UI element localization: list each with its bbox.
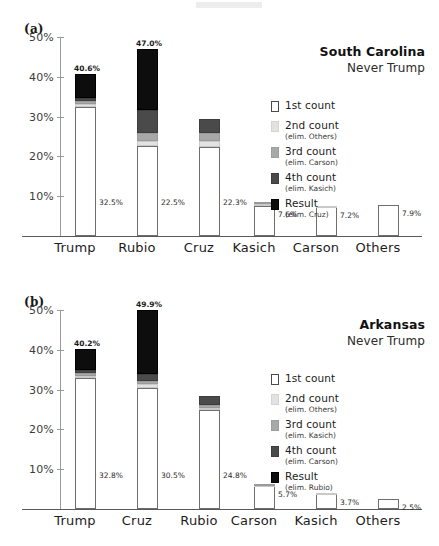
y-axis-tick-label: 20% [18,150,54,163]
bar-segment-rubio-2 [199,408,220,410]
legend-label: 4th count [285,172,403,183]
chart-subtitle-b: Never Trump [245,334,425,348]
legend-swatch-icon [271,147,279,158]
legend-swatch-icon [271,446,279,457]
y-axis-tick-mark [57,310,64,311]
legend-item-4[interactable]: 4th count(elim. Kasich) [271,172,403,193]
bar-trump[interactable] [75,0,96,236]
bar-segment-cruz-4 [137,374,158,381]
y-axis-tick-label: 30% [18,110,54,123]
legend-label: 4th count [285,445,403,456]
legend-item-2[interactable]: 2nd count(elim. Others) [271,393,403,414]
legend-sublabel: (elim. Carson) [285,158,403,167]
bar-first-count-label: 2.5% [402,503,421,512]
x-axis-line [22,236,422,237]
y-axis-tick-label: 30% [18,383,54,396]
chart-title-block-a: South Carolina Never Trump [245,44,425,75]
legend-label: 3rd count [285,419,403,430]
legend-swatch-icon [271,121,279,132]
bar-segment-cruz-5 [137,310,158,373]
y-axis-tick-label: 40% [18,70,54,83]
bar-rubio[interactable] [137,0,158,236]
bar-segment-trump-2 [75,104,96,106]
legend-item-2[interactable]: 2nd count(elim. Others) [271,120,403,141]
chart-title-b: Arkansas [245,317,425,332]
y-axis-tick-mark [57,350,64,351]
legend-swatch-icon [271,173,279,184]
chart-title-a: South Carolina [245,44,425,59]
bar-segment-cruz-1 [199,147,220,236]
y-axis-tick-label: 10% [18,190,54,203]
bar-first-count-label: 30.5% [161,471,185,480]
bar-cruz[interactable] [199,0,220,236]
bar-segment-rubio-1 [137,146,158,236]
legend-label: 3rd count [285,146,403,157]
legend-swatch-icon [271,394,279,405]
panel-south-carolina: (a) 10%20%30%40%50%40.6%32.5%Trump47.0%2… [0,0,439,273]
bar-segment-rubio-3 [137,133,158,141]
legend-label: 1st count [285,100,403,111]
bar-segment-cruz-3 [137,381,158,384]
legend-item-1[interactable]: 1st count [271,100,403,115]
bar-first-count-label: 3.7% [340,498,359,507]
legend-a: 1st count2nd count(elim. Others)3rd coun… [271,100,403,224]
y-axis-tick-mark [57,156,64,157]
bar-segment-trump-3 [75,373,96,375]
bar-segment-trump-3 [75,101,96,104]
y-axis-tick-mark [57,117,64,118]
bar-segment-rubio-4 [137,110,158,133]
bar-segment-rubio-5 [137,49,158,110]
y-axis-tick-label: 50% [18,31,54,44]
bar-segment-cruz-3 [199,133,220,141]
bar-total-label: 47.0% [136,39,162,48]
legend-sublabel: (elim. Kasich) [285,184,403,193]
y-axis-tick-label: 40% [18,343,54,356]
legend-item-3[interactable]: 3rd count(elim. Kasich) [271,419,403,440]
legend-item-1[interactable]: 1st count [271,373,403,388]
bar-first-count-label: 32.5% [99,198,123,207]
bar-first-count-label: 24.8% [223,471,247,480]
bar-first-count-label: 32.8% [99,471,123,480]
legend-sublabel: (elim. Kasich) [285,431,403,440]
legend-item-5[interactable]: Result(elim. Rubio) [271,471,403,492]
bar-rubio[interactable] [199,273,220,509]
legend-b: 1st count2nd count(elim. Others)3rd coun… [271,373,403,497]
bar-first-count-label: 7.9% [402,209,421,218]
bar-segment-trump-2 [75,376,96,379]
bar-segment-trump-5 [75,74,96,98]
legend-sublabel: (elim. Rubio) [285,483,403,492]
bar-segment-trump-4 [75,370,96,373]
bar-segment-trump-1 [75,378,96,509]
bar-segment-trump-5 [75,349,96,370]
bar-segment-others-1 [378,499,399,509]
legend-item-3[interactable]: 3rd count(elim. Carson) [271,146,403,167]
x-axis-category-others: Others [339,513,417,528]
y-axis-tick-label: 50% [18,304,54,317]
bar-total-label: 40.2% [74,339,100,348]
x-axis-category-others: Others [339,240,417,255]
bar-total-label: 49.9% [136,300,162,309]
y-axis-line [60,38,61,237]
legend-sublabel: (elim. Carson) [285,457,403,466]
y-axis-tick-mark [57,37,64,38]
legend-swatch-icon [271,472,279,483]
y-axis-tick-label: 10% [18,463,54,476]
y-axis-tick-label: 20% [18,423,54,436]
bar-segment-trump-4 [75,98,96,101]
y-axis-tick-mark [57,77,64,78]
x-axis-line [22,509,422,510]
panel-arkansas: (b) 10%20%30%40%50%40.2%32.8%Trump49.9%3… [0,273,439,546]
legend-swatch-icon [271,199,279,210]
bar-first-count-label: 22.5% [161,198,185,207]
chart-title-block-b: Arkansas Never Trump [245,317,425,348]
y-axis-tick-mark [57,196,64,197]
legend-item-5[interactable]: Result(elim. Cruz) [271,198,403,219]
legend-item-4[interactable]: 4th count(elim. Carson) [271,445,403,466]
legend-swatch-icon [271,101,279,112]
bar-total-label: 40.6% [74,64,100,73]
legend-swatch-icon [271,420,279,431]
bar-segment-cruz-2 [137,384,158,388]
bar-trump[interactable] [75,273,96,509]
bar-segment-cruz-1 [137,388,158,509]
bar-segment-rubio-2 [137,141,158,146]
